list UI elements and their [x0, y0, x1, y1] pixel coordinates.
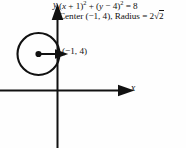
equation-line-2: Center (−1, 4), Radius = 2√2	[59, 12, 164, 22]
equation-annotation: (x + 1)2 + (y − 4)2 = 8 Center (−1, 4), …	[59, 2, 164, 22]
x-axis-label: x	[131, 83, 135, 93]
center-point-label: (−1, 4)	[62, 47, 87, 57]
radius-word: Radius = 2	[115, 11, 154, 21]
eq-equals-eight: = 8	[123, 1, 137, 11]
eq-minus-four: − 4	[103, 1, 117, 11]
eq-plus-middle: +	[86, 1, 96, 11]
circle-graph-figure: (x + 1)2 + (y − 4)2 = 8 Center (−1, 4), …	[0, 0, 186, 148]
center-coordinates: (−1, 4),	[85, 11, 114, 21]
radicand-value: 2	[159, 10, 165, 21]
center-word: Center	[59, 11, 85, 21]
y-axis-label: y	[53, 0, 57, 10]
eq-plus-one: + 1	[66, 1, 80, 11]
